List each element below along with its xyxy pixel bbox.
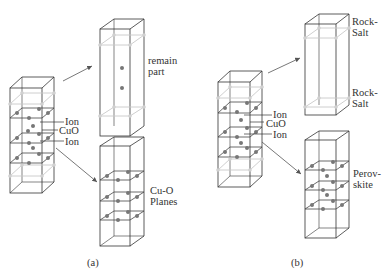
panel-a-label-part: part <box>148 66 164 77</box>
panel-b-source-atoms <box>223 101 258 159</box>
panel-a-remain-light-atoms <box>98 33 146 118</box>
crystal-structure-figure: Ion CuO Ion remain part Cu-O Planes (a) … <box>0 0 388 278</box>
panel-b-rock-salt-light-atoms <box>303 26 351 109</box>
panel-b-arrow-up <box>268 58 300 73</box>
panel-b-rock-salt-cell <box>305 14 349 115</box>
panel-a-caption: (a) <box>87 257 99 268</box>
panel-b-label-salt-top-2: Salt <box>352 27 368 38</box>
panel-b-source-gray-planes <box>218 87 262 170</box>
panel-a-arrow-up <box>63 66 92 81</box>
panel-a-remain-atoms <box>120 66 124 90</box>
panel-b-label-rock-top-1: Rock- <box>352 16 378 27</box>
panel-b-label-perov: Perov- <box>353 168 381 179</box>
panel-b-caption: (b) <box>291 257 303 268</box>
panel-a-remain-part-cell <box>100 19 144 136</box>
panel-b-label-rock-bottom-1: Rock- <box>352 87 378 98</box>
panel-b-label-cuo: CuO <box>266 118 286 129</box>
panel-a-remain-gray-planes <box>100 35 144 116</box>
panel-a-source-gray-planes <box>10 93 54 176</box>
diagram-canvas <box>0 0 388 278</box>
panel-a-label-cuo: CuO <box>59 125 79 136</box>
panel-a-label-planes: Planes <box>150 196 177 207</box>
panel-b-label-salt-bottom-2: Salt <box>352 98 368 109</box>
panel-b-arrow-down <box>262 142 301 174</box>
panel-a-label-remain: remain <box>148 55 177 66</box>
panel-a-label-cu-o: Cu-O <box>150 185 173 196</box>
panel-b-label-skite: skite <box>353 179 373 190</box>
panel-a-label-ion-bottom: Ion <box>65 136 79 147</box>
panel-a-cuo-planes-cell <box>100 137 144 246</box>
panel-b-rock-salt-gray-planes <box>305 28 349 107</box>
panel-b-source-dark-planes <box>218 102 262 157</box>
panel-b-label-ion-bottom: Ion <box>273 129 287 140</box>
panel-a-source-dark-planes <box>10 108 54 163</box>
panel-a-arrow-down <box>56 148 97 182</box>
